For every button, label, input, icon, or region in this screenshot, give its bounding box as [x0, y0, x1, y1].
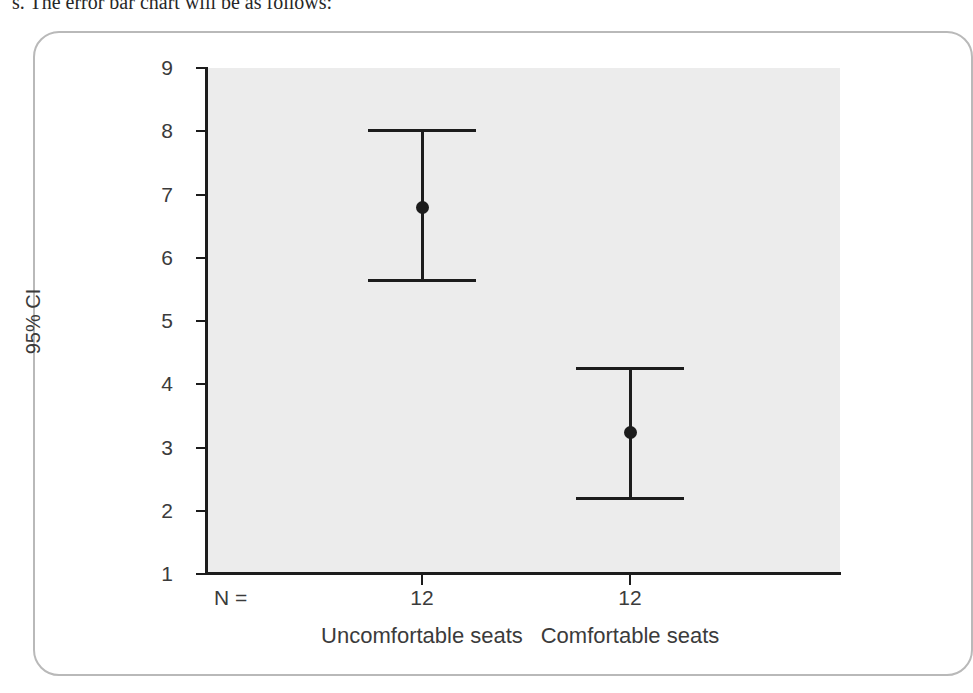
top-caption-text: s. The error bar chart will be as follow…: [0, 0, 929, 13]
y-tick-label: 4: [143, 373, 173, 394]
error-bar: [368, 129, 476, 281]
n-value-label: 12: [570, 586, 690, 610]
y-tick-mark: [196, 257, 206, 259]
y-tick-mark: [196, 510, 206, 512]
x-tick-mark: [421, 574, 423, 585]
x-tick-mark: [629, 574, 631, 585]
y-tick-label: 2: [143, 500, 173, 521]
n-value-label: 12: [362, 586, 482, 610]
y-tick-mark: [196, 130, 206, 132]
group-label: Comfortable seats: [480, 623, 780, 649]
top-caption: s. The error bar chart will be as follow…: [0, 0, 929, 13]
error-bar-lower-cap: [368, 279, 476, 282]
y-tick-label: 1: [143, 563, 173, 584]
mean-marker: [624, 426, 637, 439]
y-tick-label: 3: [143, 437, 173, 458]
y-tick-mark: [196, 573, 206, 575]
y-tick-label: 7: [143, 184, 173, 205]
y-tick-mark: [196, 67, 206, 69]
y-tick-label: 5: [143, 310, 173, 331]
error-bar-upper-cap: [368, 129, 476, 132]
plot-area-background: [208, 68, 840, 574]
mean-marker: [416, 201, 429, 214]
x-axis-line: [205, 572, 841, 575]
error-bar-lower-cap: [576, 497, 684, 500]
y-tick-label: 9: [143, 57, 173, 78]
y-tick-mark: [196, 320, 206, 322]
y-tick-mark: [196, 383, 206, 385]
error-bar: [576, 367, 684, 500]
y-tick-mark: [196, 194, 206, 196]
y-tick-mark: [196, 447, 206, 449]
y-tick-label: 6: [143, 247, 173, 268]
y-tick-label: 8: [143, 120, 173, 141]
n-prefix-label: N =: [214, 586, 247, 610]
error-bar-upper-cap: [576, 367, 684, 370]
y-axis-label: 95% CI: [22, 257, 45, 387]
